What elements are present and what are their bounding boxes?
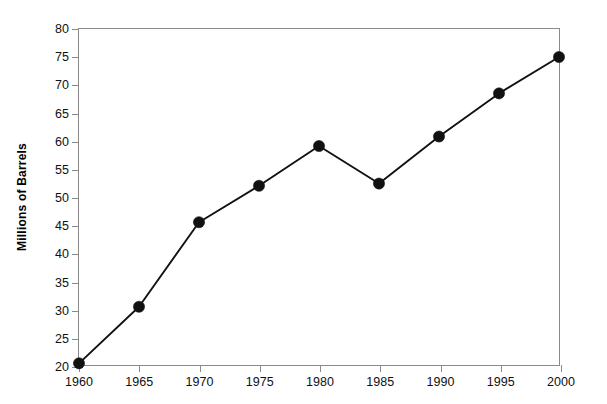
y-tick-label: 35 (55, 276, 69, 289)
y-tick-mark (72, 29, 79, 30)
y-tick-mark (72, 142, 79, 143)
x-tick-label: 1985 (366, 376, 394, 389)
y-tick-mark (72, 339, 79, 340)
x-tick-label: 2000 (547, 376, 575, 389)
y-tick-label: 45 (55, 220, 69, 233)
data-point-1995 (493, 88, 504, 99)
x-tick-mark (561, 365, 562, 372)
x-tick-mark (260, 365, 261, 372)
x-tick-label: 1980 (306, 376, 334, 389)
y-tick-mark (72, 254, 79, 255)
x-tick-mark (200, 365, 201, 372)
y-tick-mark (72, 311, 79, 312)
x-tick-label: 1975 (246, 376, 274, 389)
x-tick-mark (320, 365, 321, 372)
x-tick-label: 1970 (186, 376, 214, 389)
plot-area: 20253035404550556065707580 1960196519701… (78, 28, 560, 366)
y-tick-label: 20 (55, 361, 69, 374)
y-tick-label: 65 (55, 107, 69, 120)
x-tick-mark (380, 365, 381, 372)
data-point-1965 (133, 301, 144, 312)
x-tick-label: 1990 (427, 376, 455, 389)
y-tick-mark (72, 283, 79, 284)
series-crude-oil-production (79, 29, 559, 365)
y-tick-mark (72, 198, 79, 199)
x-tick-mark (139, 365, 140, 372)
x-tick-mark (441, 365, 442, 372)
y-tick-label: 80 (55, 23, 69, 36)
y-tick-label: 30 (55, 304, 69, 317)
chart-screenshot: WORLD PRODUCTION OF CRUDE OIL (in millio… (0, 0, 607, 404)
y-tick-label: 60 (55, 135, 69, 148)
y-tick-label: 25 (55, 333, 69, 346)
y-tick-label: 70 (55, 79, 69, 92)
y-tick-mark (72, 57, 79, 58)
series-line (79, 57, 559, 363)
x-tick-mark (501, 365, 502, 372)
data-point-1970 (193, 217, 204, 228)
data-point-1980 (313, 140, 324, 151)
x-tick-label: 1960 (65, 376, 93, 389)
y-tick-mark (72, 85, 79, 86)
data-point-1985 (373, 178, 384, 189)
y-tick-label: 55 (55, 164, 69, 177)
y-tick-label: 75 (55, 51, 69, 64)
data-point-2000 (553, 51, 564, 62)
y-tick-mark (72, 114, 79, 115)
data-point-1975 (253, 180, 264, 191)
data-point-1960 (73, 358, 84, 369)
x-tick-label: 1965 (125, 376, 153, 389)
x-tick-label: 1995 (487, 376, 515, 389)
y-tick-label: 50 (55, 192, 69, 205)
y-axis-label: Millions of Barrels (15, 143, 29, 251)
y-tick-label: 40 (55, 248, 69, 261)
data-point-1990 (433, 131, 444, 142)
y-tick-mark (72, 170, 79, 171)
y-tick-mark (72, 226, 79, 227)
